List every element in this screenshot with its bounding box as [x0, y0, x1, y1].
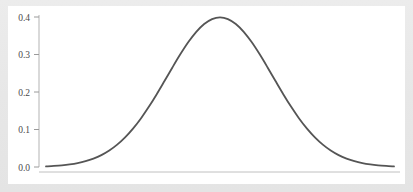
figure-frame: 0.4 0.3 0.2 0.1 0.0	[0, 0, 413, 192]
y-tick-label: 0.4	[18, 13, 30, 23]
y-tick-label: 0.0	[18, 163, 30, 173]
normal-distribution-chart: 0.4 0.3 0.2 0.1 0.0	[8, 6, 405, 184]
y-tick-label: 0.3	[18, 50, 30, 60]
y-tick-label: 0.1	[18, 125, 30, 135]
chart-panel: 0.4 0.3 0.2 0.1 0.0	[8, 6, 405, 184]
y-tick-label: 0.2	[18, 88, 30, 98]
